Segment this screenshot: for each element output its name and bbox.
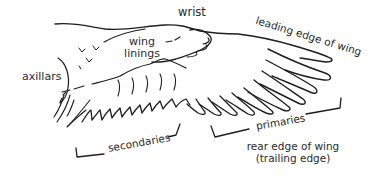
covert-mark xyxy=(79,48,85,52)
trailing-edge-line xyxy=(68,110,86,126)
primaries-bracket-right xyxy=(306,98,341,114)
label-rear-edge: rear edge of wing (trailing edge) xyxy=(238,140,348,164)
label-wing-linings-line2: linings xyxy=(124,48,160,60)
wing-lining-lower-line xyxy=(92,59,186,84)
label-axillars: axillars xyxy=(22,71,61,83)
secondaries-edge xyxy=(82,99,190,122)
label-rear-edge-line1: rear edge of wing xyxy=(238,140,348,152)
secondaries-shading xyxy=(118,74,176,96)
primaries-bracket-left xyxy=(211,126,249,137)
primary-feather-8 xyxy=(199,98,221,115)
wing-lining-dash xyxy=(166,37,180,42)
wrist-outline xyxy=(152,29,211,62)
label-wing-linings: wing linings xyxy=(124,36,160,60)
label-rear-edge-line2: (trailing edge) xyxy=(238,152,348,164)
covert-mark xyxy=(93,46,99,50)
covert-mark xyxy=(79,66,81,69)
covert-mark xyxy=(86,58,92,62)
wing-diagram: wrist leading edge of wing wing linings … xyxy=(0,0,374,177)
wrist-covert-1 xyxy=(203,38,209,44)
secondaries-bracket xyxy=(76,148,104,157)
primary-feather-7 xyxy=(212,96,237,115)
primary-feather-5 xyxy=(238,88,273,114)
wing-lining-dash-2 xyxy=(62,86,84,92)
label-wrist: wrist xyxy=(178,6,206,18)
